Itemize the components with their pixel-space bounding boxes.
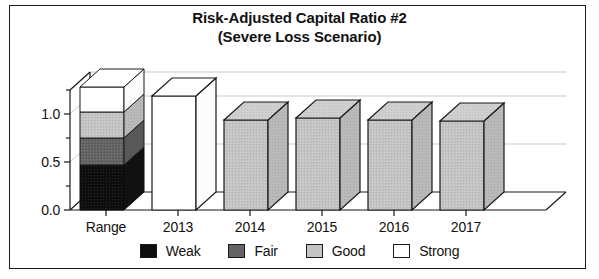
legend-swatch-fair-icon: [228, 244, 245, 258]
bar-segment-good: [80, 112, 124, 138]
legend-label-strong: Strong: [419, 243, 459, 259]
bar-2015-front: [296, 118, 340, 210]
plot-area: 1.0 0.5 0.0 Range 2013 2014 2015 2016 20…: [0, 0, 599, 279]
bar-segment-weak: [80, 165, 124, 210]
bar-2013[interactable]: [152, 78, 216, 210]
legend-item-good[interactable]: Good: [306, 243, 365, 259]
bar-2016-front: [368, 120, 412, 210]
legend-label-weak: Weak: [166, 243, 201, 259]
chart-page: Risk-Adjusted Capital Ratio #2 (Severe L…: [0, 0, 599, 279]
legend-swatch-weak-icon: [140, 244, 157, 258]
legend-item-fair[interactable]: Fair: [228, 243, 277, 259]
y-tick-label-1: 1.0: [20, 106, 60, 122]
legend-item-strong[interactable]: Strong: [393, 243, 459, 259]
y-tick-label-3: 0.0: [20, 202, 60, 218]
legend-swatch-strong-icon: [393, 244, 410, 258]
bar-2014[interactable]: [224, 102, 288, 210]
x-tick-label-2015: 2015: [287, 219, 357, 235]
x-tick-label-2014: 2014: [215, 219, 285, 235]
x-tick-label-range: Range: [71, 219, 141, 235]
bar-segment-strong: [80, 87, 124, 112]
bar-2014-side: [268, 102, 288, 210]
bar-2013-side: [196, 78, 216, 210]
legend-item-weak[interactable]: Weak: [140, 243, 201, 259]
x-tick-label-2016: 2016: [359, 219, 429, 235]
bar-2016[interactable]: [368, 102, 432, 210]
bar-segment-fair: [80, 138, 124, 165]
bar-range[interactable]: [80, 69, 144, 210]
chart-legend: Weak Fair Good Strong: [0, 243, 599, 259]
bar-2014-front: [224, 120, 268, 210]
bar-2017[interactable]: [440, 103, 504, 210]
legend-swatch-good-icon: [306, 244, 323, 258]
y-tick-label-2: 0.5: [20, 154, 60, 170]
bar-2016-side: [412, 102, 432, 210]
x-tick-label-2017: 2017: [431, 219, 501, 235]
legend-label-fair: Fair: [254, 243, 277, 259]
bar-2013-front: [152, 96, 196, 210]
x-axis-ticks: [106, 210, 466, 216]
chart-svg: [0, 0, 599, 279]
bar-2015[interactable]: [296, 100, 360, 210]
x-tick-label-2013: 2013: [143, 219, 213, 235]
bar-2017-front: [440, 121, 484, 210]
legend-label-good: Good: [332, 243, 365, 259]
bar-2015-side: [340, 100, 360, 210]
